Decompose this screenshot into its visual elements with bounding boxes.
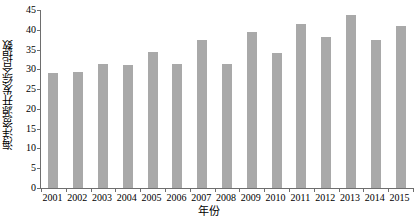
x-axis-tick-mark	[413, 188, 414, 192]
x-axis-tick-label: 2015	[390, 192, 410, 204]
y-axis-tick-mark	[37, 50, 41, 51]
y-axis-tick-mark	[37, 30, 41, 31]
x-axis-tick-label: 2002	[67, 192, 87, 204]
y-axis-tick-label: 10	[26, 143, 36, 153]
bar	[98, 64, 108, 188]
y-axis-tick-label: 25	[26, 84, 36, 94]
bar	[296, 24, 306, 188]
y-axis-tick-mark	[37, 89, 41, 90]
y-axis-tick-mark	[37, 69, 41, 70]
bar	[172, 64, 182, 188]
bar	[123, 65, 133, 188]
y-axis-tick-mark	[37, 10, 41, 11]
y-axis-tick-label: 45	[26, 5, 36, 15]
bar	[48, 73, 58, 189]
x-axis-title: 年份	[0, 206, 417, 218]
bar	[222, 64, 232, 188]
bar	[371, 40, 381, 188]
x-axis-tick-label: 2003	[92, 192, 112, 204]
bar	[272, 53, 282, 188]
y-axis-tick-mark	[37, 168, 41, 169]
bar	[396, 26, 406, 188]
bar	[346, 15, 356, 188]
bar	[73, 72, 83, 188]
x-axis-tick-label: 2011	[291, 192, 311, 204]
bar-chart: 海洋资源开发综合指数 051015202530354045 2001200220…	[0, 0, 417, 224]
bar	[247, 32, 257, 188]
y-axis-tick-label: 20	[26, 104, 36, 114]
bar	[197, 40, 207, 188]
x-axis-tick-label: 2001	[42, 192, 62, 204]
y-axis-tick-label: 0	[31, 183, 36, 193]
x-axis-tick-label: 2010	[266, 192, 286, 204]
y-axis-tick-mark	[37, 148, 41, 149]
x-axis-tick-label: 2008	[216, 192, 236, 204]
x-axis-tick-label: 2005	[142, 192, 162, 204]
y-axis-tick-mark	[37, 129, 41, 130]
bar	[321, 37, 331, 188]
x-axis-tick-label: 2014	[365, 192, 385, 204]
bar	[148, 52, 158, 188]
y-axis-title: 海洋资源开发综合指数	[0, 0, 16, 190]
plot-area	[40, 10, 413, 189]
y-axis-tick-label: 35	[26, 45, 36, 55]
y-axis-title-label: 海洋资源开发综合指数	[3, 40, 14, 150]
x-axis-tick-label: 2004	[117, 192, 137, 204]
x-axis-tick-label: 2013	[340, 192, 360, 204]
y-axis-tick-mark	[37, 109, 41, 110]
y-axis-tick-label: 30	[26, 64, 36, 74]
y-axis-tick-label: 40	[26, 25, 36, 35]
x-axis-tick-label: 2007	[191, 192, 211, 204]
x-axis-tick-label: 2009	[241, 192, 261, 204]
x-axis-tick-label: 2006	[166, 192, 186, 204]
y-axis-tick-label: 15	[26, 124, 36, 134]
y-axis-tick-labels: 051015202530354045	[16, 0, 38, 224]
x-axis-title-label: 年份	[198, 205, 220, 218]
x-axis-tick-label: 2012	[315, 192, 335, 204]
x-axis-tick-labels: 2001200220032004200520062007200820092010…	[40, 192, 412, 206]
y-axis-tick-label: 5	[31, 163, 36, 173]
